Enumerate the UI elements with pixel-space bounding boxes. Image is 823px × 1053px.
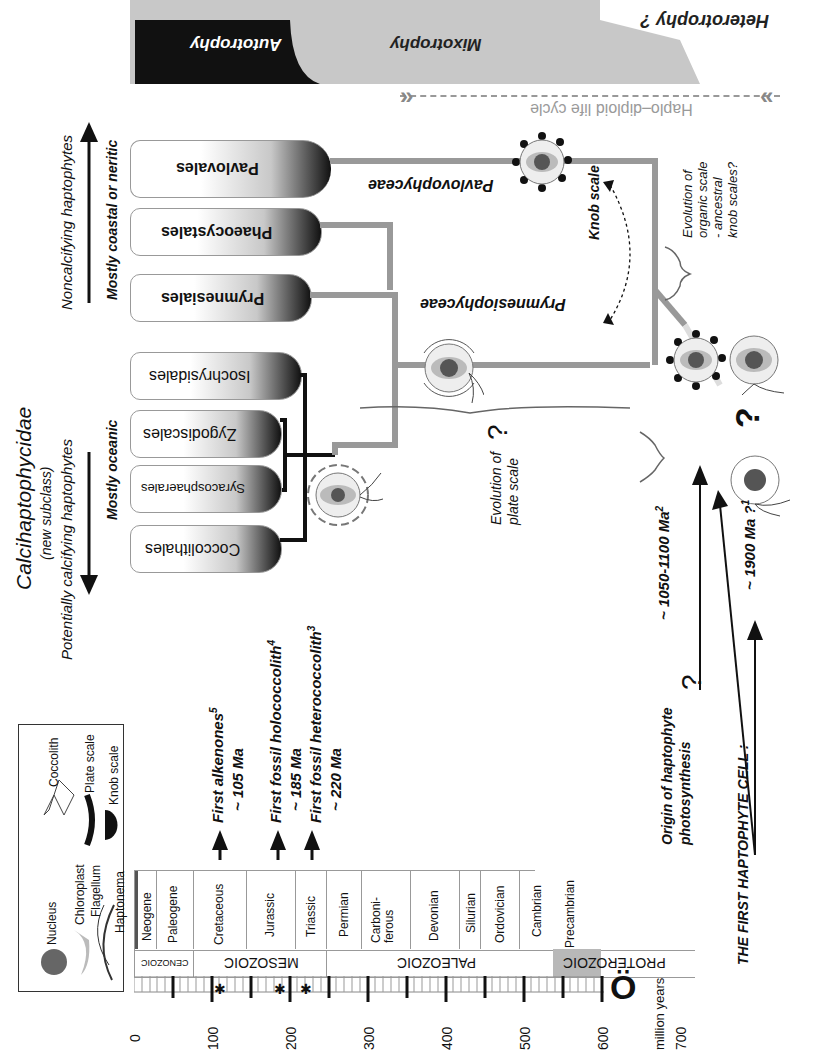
fossil-event-arrows bbox=[200, 820, 340, 860]
photosynthesis-age: ~ 1050-1100 Ma2 bbox=[654, 506, 672, 620]
organic-scale-annotation: Evolution of organic scale - ancestral k… bbox=[680, 161, 740, 238]
period-cretaceous: Cretaceous bbox=[194, 871, 247, 949]
era-mesozoic: MESOZOIC bbox=[194, 951, 327, 977]
svg-text:✱: ✱ bbox=[300, 981, 312, 997]
tick-label-400: 400 bbox=[439, 1027, 455, 1050]
period-carboniferous: Carboni-ferous bbox=[362, 871, 411, 949]
arrow-up-icon bbox=[712, 490, 728, 510]
prymnesiophyceae-label: Prymnesiophyceae bbox=[420, 295, 566, 313]
timescale: Neogene Paleogene Cretaceous Jurassic Tr… bbox=[130, 870, 690, 1053]
tick-label-700: 700 bbox=[673, 1027, 689, 1050]
organic-scale-brace bbox=[665, 247, 690, 300]
tick-label-500: 500 bbox=[517, 1027, 533, 1050]
periods-row: Neogene Paleogene Cretaceous Jurassic Tr… bbox=[134, 870, 535, 951]
period-permian: Permian bbox=[327, 871, 362, 949]
legend-knob-scale: Knob scale bbox=[107, 746, 121, 805]
tick-label-100: 100 bbox=[205, 1027, 221, 1050]
svg-text:✱: ✱ bbox=[214, 981, 226, 997]
period-silurian: Silurian bbox=[460, 871, 481, 949]
naked-photosynthetic-cell-icon bbox=[724, 325, 794, 395]
legend-coccolith: Coccolith bbox=[47, 738, 61, 787]
tick-label-600: 600 bbox=[595, 1027, 611, 1050]
legend-box: Nucleus Chloroplast Flagellum Haptonema … bbox=[18, 724, 124, 992]
time-ruler: ✱✱✱ bbox=[134, 976, 614, 1002]
first-cell-question: ? bbox=[728, 407, 767, 428]
pavlovophyceae-cell-icon bbox=[510, 130, 574, 194]
arrow-up-icon bbox=[747, 620, 763, 640]
knob-scale-icon bbox=[105, 810, 117, 840]
unit-label: million years bbox=[652, 978, 667, 1050]
plate-scale-annotation: Evolution of plate scale bbox=[488, 452, 522, 525]
period-triassic: Triassic bbox=[296, 871, 327, 949]
fossil-event-alkenones: First alkenones5 ~ 105 Ma bbox=[204, 707, 248, 823]
era-paleozoic: PALEOZOIC bbox=[327, 951, 553, 977]
coccolith-cell-icon bbox=[303, 455, 383, 535]
prymnesiophyceae-cell-icon bbox=[414, 333, 484, 403]
legend-nucleus: Nucleus bbox=[45, 902, 59, 945]
svg-text:✱: ✱ bbox=[274, 981, 286, 997]
arrowhead-icon bbox=[603, 180, 614, 192]
nucleus-icon bbox=[41, 949, 67, 975]
tick-label-300: 300 bbox=[361, 1027, 377, 1050]
fossil-event-holococcolith: First fossil holococcolith4 ~ 185 Ma bbox=[262, 640, 306, 823]
scale-break-icon: Ö bbox=[610, 968, 636, 1007]
period-neogene: Neogene bbox=[135, 871, 157, 949]
period-precambrian: Precambrian bbox=[563, 880, 577, 948]
chloroplast-icon bbox=[74, 930, 89, 975]
arrowhead-icon bbox=[603, 313, 614, 325]
major-ticks bbox=[173, 976, 602, 1002]
pavlovophyceae-label: Pavlovophyceae bbox=[368, 176, 493, 194]
era-cenozoic: CENOZOIC bbox=[135, 951, 194, 977]
period-paleogene: Paleogene bbox=[156, 871, 194, 949]
knob-scale-label: Knob scale bbox=[586, 165, 602, 240]
tick-label-0: 0 bbox=[127, 1034, 143, 1042]
knob-scale-dashed-arrow bbox=[610, 185, 630, 320]
arrow-up-icon bbox=[692, 465, 708, 485]
plate-scale-brace-small bbox=[640, 432, 664, 482]
legend-flagellum: Flagellum bbox=[89, 865, 103, 917]
period-ordovician: Ordovician bbox=[481, 871, 520, 949]
tick-label-200: 200 bbox=[283, 1027, 299, 1050]
period-devonian: Devonian bbox=[411, 871, 460, 949]
ancestral-knob-cell-icon bbox=[664, 328, 728, 392]
legend-plate-scale: Plate scale bbox=[83, 734, 97, 793]
period-cambrian: Cambrian bbox=[520, 871, 558, 949]
period-jurassic: Jurassic bbox=[247, 871, 296, 949]
fossil-event-heterococcolith: First fossil heterococcolith3 ~ 220 Ma bbox=[302, 626, 346, 823]
legend-haptonema: Haptonema bbox=[113, 871, 127, 933]
legend-chloroplast: Chloroplast bbox=[73, 864, 87, 925]
origin-arrows bbox=[680, 460, 790, 900]
plate-scale-icon bbox=[87, 795, 92, 845]
plate-scale-brace bbox=[360, 407, 630, 413]
plate-scale-question: ? bbox=[482, 424, 514, 440]
